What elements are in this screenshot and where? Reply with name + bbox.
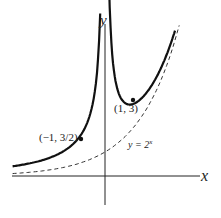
point-2-label: (−1, 3/2)	[39, 131, 78, 143]
point-1-label: (1, 3)	[114, 102, 138, 114]
curve-left-branch	[13, 14, 101, 167]
y-axis-label: y	[100, 12, 107, 29]
x-axis-label: x	[201, 167, 208, 185]
curve-right-branch	[109, 0, 175, 105]
curve-label: y = 2x	[128, 138, 152, 150]
point-neg1-1.5	[79, 137, 83, 141]
plot-svg	[0, 0, 221, 218]
graph: y x (1, 3) (−1, 3/2) y = 2x	[0, 0, 221, 218]
exp-curve	[13, 25, 180, 173]
